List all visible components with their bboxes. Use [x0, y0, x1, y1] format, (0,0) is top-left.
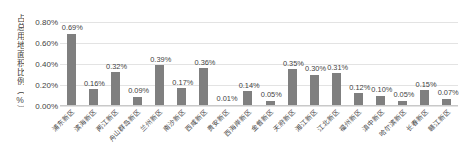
bar-slot: 0.32% [104, 22, 126, 106]
bar[interactable] [243, 91, 252, 106]
bar-value-label: 0.35% [283, 60, 304, 68]
y-axis-title: 占总用地面积比例（%） [8, 14, 24, 134]
y-axis-tick: 0.60% [26, 39, 58, 48]
bar[interactable] [155, 65, 164, 106]
x-label-slot: 天府新区 [281, 107, 303, 158]
bar-value-label: 0.05% [261, 91, 282, 99]
x-label-slot: 浦东新区 [60, 107, 82, 158]
x-label-slot: 湘江新区 [303, 107, 325, 158]
bar[interactable] [111, 72, 120, 106]
bar[interactable] [310, 75, 319, 107]
y-axis-tick-labels: 0.00%0.20%0.40%0.60%0.80% [26, 0, 58, 158]
bar-slot: 0.69% [60, 22, 82, 106]
bar[interactable] [67, 34, 76, 106]
bar-value-label: 0.36% [194, 59, 215, 67]
bar-slot: 0.31% [325, 22, 347, 106]
bar-slot: 0.39% [148, 22, 170, 106]
bar-value-label: 0.32% [106, 63, 127, 71]
bar-slot: 0.01% [215, 22, 237, 106]
bar-slot: 0.09% [126, 22, 148, 106]
x-label-slot: 滨海新区 [82, 107, 104, 158]
bar-value-label: 0.10% [371, 86, 392, 94]
bar-slot: 0.15% [414, 22, 436, 106]
bar-slot: 0.17% [171, 22, 193, 106]
x-axis-line [60, 105, 458, 106]
bar-slot: 0.14% [237, 22, 259, 106]
bar-slot: 0.05% [259, 22, 281, 106]
bar-value-label: 0.12% [349, 84, 370, 92]
bar-value-label: 0.14% [239, 82, 260, 90]
bar-chart: 占总用地面积比例（%） 0.00%0.20%0.40%0.60%0.80% 0.… [0, 0, 463, 158]
x-label-slot: 长春新区 [414, 107, 436, 158]
bar-value-label: 0.16% [84, 80, 105, 88]
bar-slot: 0.07% [436, 22, 458, 106]
x-label-slot: 西海岸新区 [237, 107, 259, 158]
x-label-slot: 西咸新区 [193, 107, 215, 158]
bar-value-label: 0.15% [416, 81, 437, 89]
bar-slot: 0.35% [281, 22, 303, 106]
x-label-slot: 哈尔滨新区 [392, 107, 414, 158]
plot-area: 0.69%0.16%0.32%0.09%0.39%0.17%0.36%0.01%… [60, 22, 458, 106]
x-label-slot: 赣江新区 [436, 107, 458, 158]
bar[interactable] [332, 73, 341, 106]
bar-slot: 0.05% [392, 22, 414, 106]
bar-value-label: 0.05% [393, 91, 414, 99]
bar-value-label: 0.30% [305, 65, 326, 73]
bar-value-label: 0.01% [217, 95, 238, 103]
bar-value-label: 0.31% [327, 64, 348, 72]
bar[interactable] [288, 69, 297, 106]
bar-slot: 0.36% [193, 22, 215, 106]
x-label-slot: 江北新区 [325, 107, 347, 158]
bar-slot: 0.10% [370, 22, 392, 106]
bar-slot: 0.16% [82, 22, 104, 106]
x-axis-category-labels: 浦东新区滨海新区两江新区舟山群岛新区兰州新区南沙新区西咸新区贵安新区西海岸新区金… [60, 107, 458, 158]
bar-value-label: 0.39% [150, 56, 171, 64]
bar-value-label: 0.07% [438, 89, 459, 97]
bar[interactable] [177, 88, 186, 106]
y-axis-tick: 0.00% [26, 102, 58, 111]
bar[interactable] [199, 68, 208, 106]
bar-value-label: 0.69% [62, 24, 83, 32]
bar[interactable] [89, 89, 98, 106]
y-axis-tick: 0.40% [26, 60, 58, 69]
x-label-slot: 金普新区 [259, 107, 281, 158]
bar-slot: 0.30% [303, 22, 325, 106]
bar-series: 0.69%0.16%0.32%0.09%0.39%0.17%0.36%0.01%… [60, 22, 458, 106]
bar-slot: 0.12% [347, 22, 369, 106]
y-axis-tick: 0.20% [26, 81, 58, 90]
bar[interactable] [420, 90, 429, 106]
x-label-slot: 舟山群岛新区 [126, 107, 148, 158]
bar-value-label: 0.09% [128, 87, 149, 95]
y-axis-tick: 0.80% [26, 18, 58, 27]
bar-value-label: 0.17% [172, 79, 193, 87]
